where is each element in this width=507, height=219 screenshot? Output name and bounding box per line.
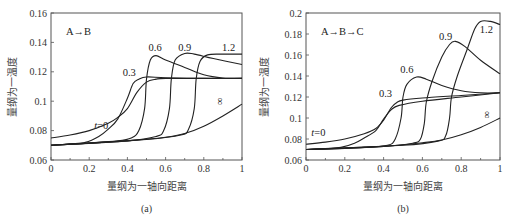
series-label: ∞ bbox=[481, 111, 492, 119]
x-tick-label: 0.2 bbox=[339, 163, 352, 174]
y-tick-label: 0.12 bbox=[30, 66, 48, 77]
x-tick-label: 0.6 bbox=[416, 163, 429, 174]
y-tick-label: 0.08 bbox=[30, 125, 48, 136]
y-tick-label: 0.16 bbox=[285, 50, 303, 61]
reaction-annotation: A→B bbox=[66, 26, 91, 37]
series-label: 0.3 bbox=[379, 88, 392, 99]
series-label: ∞ bbox=[214, 97, 225, 105]
series-line bbox=[51, 104, 242, 145]
series-label: 0.9 bbox=[439, 31, 452, 42]
x-tick-label: 1 bbox=[240, 163, 245, 174]
series-label: 0.9 bbox=[178, 42, 191, 53]
series-line bbox=[51, 77, 242, 145]
series-label: t=0 bbox=[311, 127, 325, 138]
y-tick-label: 0.08 bbox=[285, 134, 303, 145]
x-tick-label: 0.4 bbox=[377, 163, 390, 174]
y-tick-label: 0.1 bbox=[35, 96, 48, 107]
y-tick-label: 0.18 bbox=[285, 29, 303, 40]
x-tick-label: 0.6 bbox=[159, 163, 172, 174]
figure: 00.20.40.60.810.060.080.10.120.140.16t=0… bbox=[0, 0, 507, 219]
y-axis-title: 量纲为一温度 bbox=[258, 57, 270, 117]
reaction-annotation: A→B→C bbox=[321, 26, 364, 37]
y-tick-label: 0.14 bbox=[285, 71, 303, 82]
chart-panel-a: 00.20.40.60.810.060.080.10.120.140.16t=0… bbox=[6, 8, 245, 216]
y-tick-label: 0.2 bbox=[290, 8, 303, 19]
y-tick-label: 0.06 bbox=[285, 155, 303, 166]
x-tick-label: 1 bbox=[498, 163, 503, 174]
x-tick-label: 0.8 bbox=[455, 163, 468, 174]
y-tick-label: 0.06 bbox=[30, 155, 48, 166]
panel-label: (b) bbox=[397, 203, 409, 215]
y-tick-label: 0.16 bbox=[30, 8, 48, 19]
y-tick-label: 0.1 bbox=[290, 113, 303, 124]
y-tick-label: 0.12 bbox=[285, 92, 303, 103]
series-label: t=0 bbox=[94, 120, 108, 131]
series-label: 1.2 bbox=[480, 24, 493, 35]
x-tick-label: 0.8 bbox=[198, 163, 211, 174]
series-label: 0.3 bbox=[123, 67, 136, 78]
series-label: 0.6 bbox=[400, 64, 413, 75]
x-tick-label: 0.4 bbox=[121, 163, 134, 174]
y-tick-label: 0.14 bbox=[30, 37, 48, 48]
series-line bbox=[51, 78, 242, 138]
series-label: 0.6 bbox=[149, 42, 162, 53]
series-line bbox=[306, 77, 500, 150]
chart-panel-b: 00.20.40.60.810.060.080.10.120.140.160.1… bbox=[258, 8, 503, 216]
x-axis-title: 量纲为一轴向距离 bbox=[107, 180, 187, 192]
y-axis-title: 量纲为一温度 bbox=[6, 57, 18, 117]
panel-label: (a) bbox=[141, 203, 152, 215]
x-tick-label: 0.2 bbox=[83, 163, 96, 174]
x-axis-title: 量纲为一轴向距离 bbox=[363, 180, 443, 192]
series-label: 1.2 bbox=[222, 42, 235, 53]
series-line bbox=[306, 118, 500, 150]
x-tick-label: 0 bbox=[49, 163, 54, 174]
x-tick-label: 0 bbox=[304, 163, 309, 174]
series-line bbox=[306, 21, 500, 150]
